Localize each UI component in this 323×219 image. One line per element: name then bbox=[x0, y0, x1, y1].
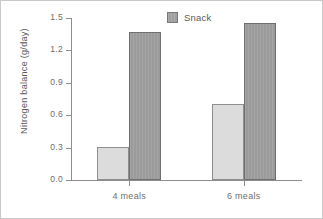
bar-4-meals-snack bbox=[129, 32, 161, 180]
y-axis-tick-label: 0.3 bbox=[1, 142, 63, 152]
chart-figure: Nitrogen balance (g/day) 1.51.20.90.60.3… bbox=[0, 0, 323, 219]
y-axis-tick-label: 1.2 bbox=[1, 44, 63, 54]
y-axis-tick-label: 1.5 bbox=[1, 12, 63, 22]
legend-swatch-snack bbox=[167, 12, 178, 23]
bar-4-meals-base bbox=[97, 147, 129, 180]
x-axis-tick bbox=[244, 181, 245, 186]
legend-label-snack: Snack bbox=[184, 12, 211, 23]
y-axis-tick-label: 0.6 bbox=[1, 109, 63, 119]
y-axis-tick-label: 0.0 bbox=[1, 174, 63, 184]
y-axis-tick-label: 0.9 bbox=[1, 77, 63, 87]
y-axis-tick bbox=[66, 180, 72, 181]
chart-legend: Snack bbox=[167, 12, 211, 23]
x-axis-tick-label: 4 meals bbox=[112, 191, 146, 201]
plot-area bbox=[72, 18, 301, 180]
x-axis-tick bbox=[129, 181, 130, 186]
bar-6-meals-snack bbox=[244, 23, 276, 180]
bar-6-meals-base bbox=[212, 104, 244, 180]
x-axis-tick-label: 6 meals bbox=[227, 191, 261, 201]
x-axis-line bbox=[71, 180, 302, 181]
